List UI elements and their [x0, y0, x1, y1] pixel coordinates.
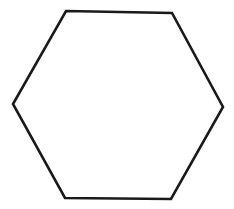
diagram-canvas	[0, 0, 234, 209]
background	[0, 0, 234, 209]
